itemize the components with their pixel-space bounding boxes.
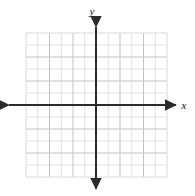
x-axis-label: x — [181, 99, 187, 111]
coordinate-grid-figure: x y — [0, 0, 195, 196]
coordinate-plane-svg: x y — [0, 0, 195, 196]
y-axis-label: y — [89, 5, 95, 17]
